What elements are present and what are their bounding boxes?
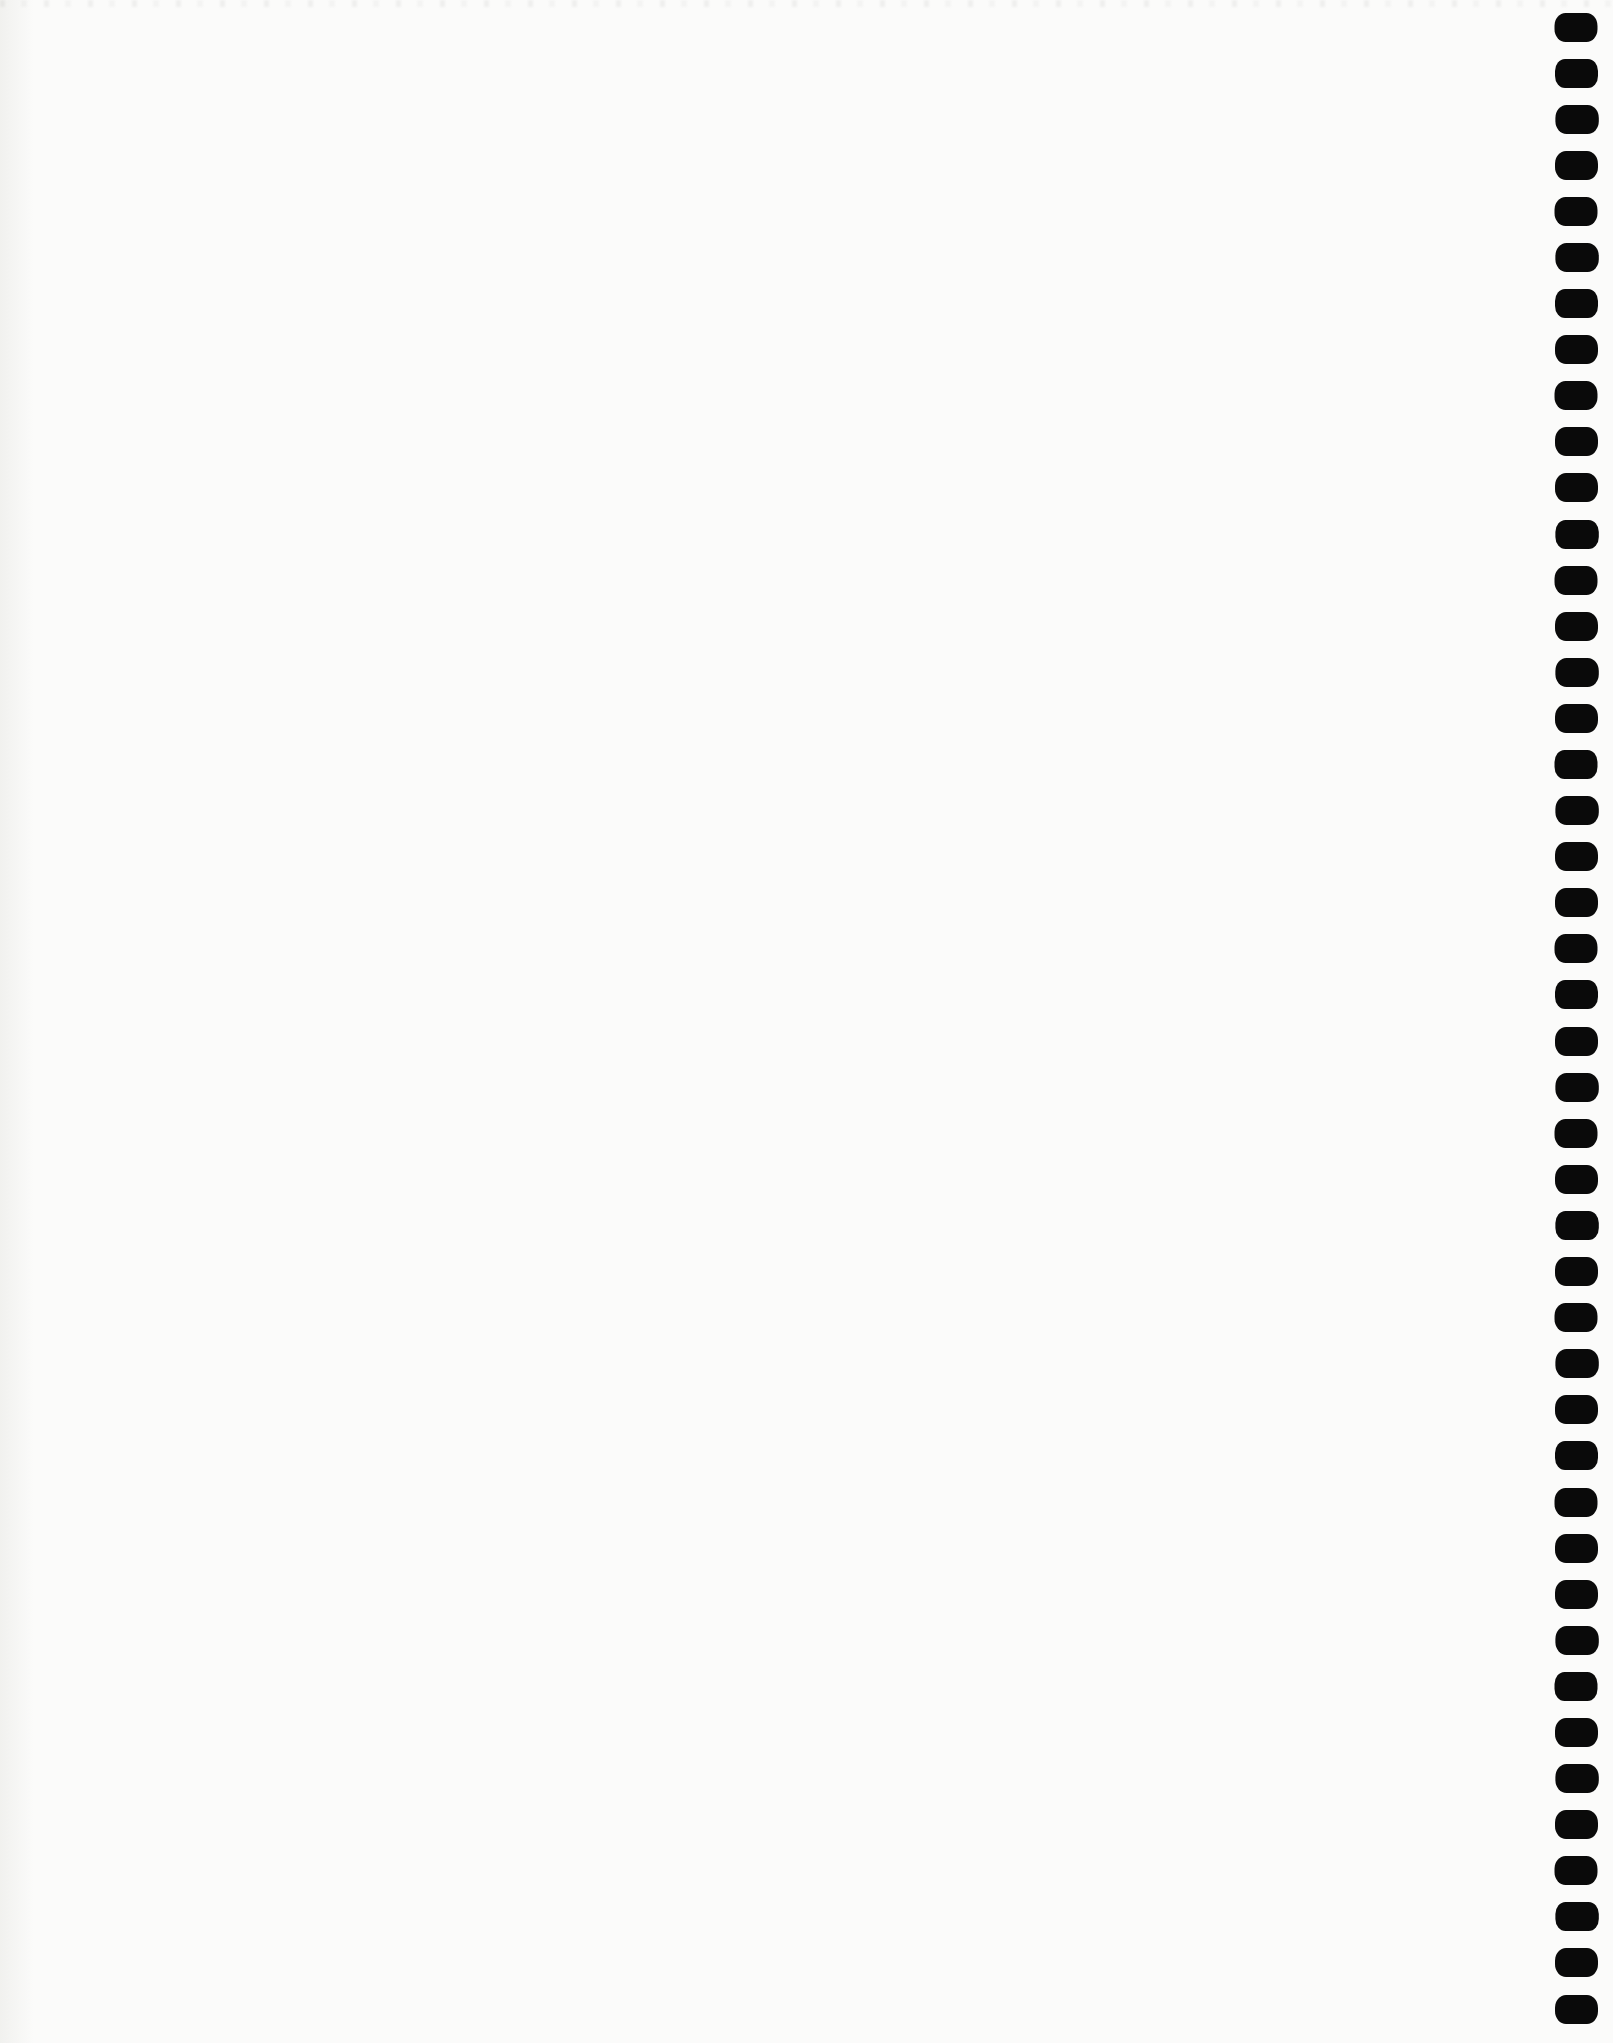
binding-hole-icon (1555, 612, 1598, 641)
binding-hole-icon (1555, 750, 1598, 779)
binding-hole-icon (1555, 381, 1598, 410)
binding-hole-icon (1555, 1165, 1598, 1194)
binding-hole-icon (1555, 151, 1598, 180)
binding-hole-icon (1555, 1902, 1598, 1931)
binding-hole-icon (1555, 520, 1598, 549)
binding-hole-icon (1555, 1073, 1598, 1102)
binding-holes-column (1555, 13, 1598, 2024)
binding-hole-icon (1555, 473, 1598, 502)
binding-hole-icon (1555, 1764, 1598, 1793)
binding-hole-icon (1555, 980, 1598, 1009)
binding-hole-icon (1555, 1672, 1598, 1701)
binding-hole-icon (1555, 1995, 1598, 2024)
binding-hole-icon (1555, 1626, 1598, 1655)
binding-hole-icon (1555, 1257, 1598, 1286)
binding-hole-icon (1555, 1211, 1598, 1240)
binding-hole-icon (1555, 1303, 1598, 1332)
binding-hole-icon (1555, 1718, 1598, 1747)
binding-hole-icon (1555, 427, 1598, 456)
binding-hole-icon (1555, 888, 1598, 917)
binding-hole-icon (1555, 1395, 1598, 1424)
binding-hole-icon (1555, 1580, 1598, 1609)
binding-hole-icon (1555, 1810, 1598, 1839)
binding-hole-icon (1555, 658, 1598, 687)
binding-hole-icon (1555, 289, 1598, 318)
binding-hole-icon (1555, 1349, 1598, 1378)
binding-hole-icon (1555, 796, 1598, 825)
binding-hole-icon (1555, 1948, 1598, 1977)
binding-hole-icon (1555, 704, 1598, 733)
binding-hole-icon (1555, 59, 1598, 88)
binding-hole-icon (1555, 197, 1598, 226)
binding-hole-icon (1555, 566, 1598, 595)
binding-hole-icon (1555, 105, 1598, 134)
scanned-blank-page (0, 0, 1613, 2043)
binding-hole-icon (1555, 1441, 1598, 1470)
binding-hole-icon (1555, 1119, 1598, 1148)
binding-hole-icon (1555, 13, 1598, 42)
scan-top-edge-artifact (0, 0, 1613, 7)
binding-hole-icon (1555, 1534, 1598, 1563)
binding-hole-icon (1555, 1856, 1598, 1885)
binding-hole-icon (1555, 1027, 1598, 1056)
binding-hole-icon (1555, 842, 1598, 871)
binding-hole-icon (1555, 243, 1598, 272)
binding-hole-icon (1555, 934, 1598, 963)
binding-hole-icon (1555, 335, 1598, 364)
binding-hole-icon (1555, 1488, 1598, 1517)
